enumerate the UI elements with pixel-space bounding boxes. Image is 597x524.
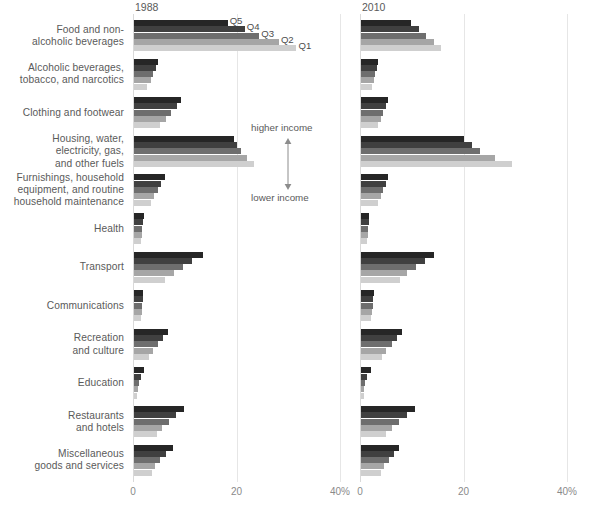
category-label-line: Recreation [0,332,124,344]
bar-q4 [361,451,394,457]
bar-q4 [361,219,369,225]
bar-q2 [361,386,364,392]
bar-q4 [134,103,177,109]
category-label-line: Restaurants [0,410,124,422]
bar-q1 [361,277,400,283]
category-label: Communications [0,300,124,312]
category-label-line: equipment, and routine [0,184,124,196]
bar-q4 [361,142,472,148]
quintile-label-q1: Q1 [298,40,311,51]
bar-q1 [361,315,371,321]
bar-q1 [134,161,254,167]
bar-q5 [361,136,464,142]
panel-2010: 2010 02040% [360,14,567,482]
bar-q2 [361,309,372,315]
bar-q1 [361,161,512,167]
bar-q1 [134,84,147,90]
quintile-label-q3: Q3 [261,28,274,39]
bar-q5 [361,367,371,373]
category-label-line: Clothing and footwear [0,107,124,119]
double-arrow-icon [282,138,294,190]
bar-q4 [361,103,386,109]
bar-q1 [361,470,381,476]
bar-q3 [134,71,153,77]
panel-title-2010: 2010 [362,1,385,13]
bar-q3 [134,148,241,154]
bar-q3 [361,71,375,77]
bar-q1 [134,277,165,283]
category-label-line: and culture [0,345,124,357]
bar-q5 [361,406,415,412]
x-tick-label: 40% [557,486,577,497]
bar-q5 [361,329,402,335]
bar-q1 [134,122,160,128]
bar-q1 [361,84,372,90]
category-label-line: Communications [0,300,124,312]
bar-q5 [361,20,411,26]
quintile-label-q5: Q5 [230,15,243,26]
category-label-line: and other fuels [0,158,124,170]
bar-q3 [134,457,160,463]
bar-q4 [361,26,419,32]
category-label: Alcoholic beverages,tobacco, and narcoti… [0,62,124,86]
bar-q2 [361,463,384,469]
bar-q3 [361,33,426,39]
category-label-line: Education [0,377,124,389]
bar-q3 [361,303,373,309]
bar-q2 [134,348,153,354]
bar-q2 [361,116,381,122]
bar-q1 [134,45,296,51]
x-tick-label: 20 [231,486,242,497]
bar-q5 [134,329,168,335]
bar-q3 [134,187,158,193]
bar-q3 [361,419,399,425]
bar-q1 [134,238,141,244]
bar-q1 [361,393,364,399]
category-label-line: and hotels [0,422,124,434]
bar-q2 [134,309,142,315]
panel-1988: 1988 02040%Q5Q4Q3Q2Q1 [133,14,340,482]
bar-q1 [361,431,386,437]
bar-q5 [134,20,228,26]
category-label: Clothing and footwear [0,107,124,119]
category-label: Housing, water,electricity, gas,and othe… [0,133,124,170]
bar-q3 [134,110,171,116]
bar-q3 [361,264,416,270]
bar-q3 [134,341,158,347]
bar-q5 [361,445,399,451]
bar-q4 [134,451,166,457]
bar-q3 [134,419,169,425]
category-label: Education [0,377,124,389]
bar-q5 [361,252,434,258]
bar-q4 [134,142,237,148]
bar-q1 [361,238,367,244]
bar-q5 [134,252,203,258]
bar-q4 [134,296,143,302]
x-tick-label: 0 [357,486,363,497]
bar-q4 [361,258,425,264]
bar-q5 [134,174,165,180]
category-label-line: Food and non- [0,24,124,36]
gridline [237,14,238,482]
category-label-line: alcoholic beverages [0,36,124,48]
higher-income-label: higher income [251,122,313,133]
category-label-line: Alcoholic beverages, [0,62,124,74]
bar-q4 [361,296,373,302]
category-label: Restaurantsand hotels [0,410,124,434]
bar-q4 [134,412,176,418]
bar-q3 [361,226,368,232]
x-tick-label: 40% [330,486,350,497]
bar-q4 [134,219,143,225]
bar-q1 [134,315,141,321]
gridline [567,14,568,482]
bar-q2 [361,77,374,83]
bar-q5 [361,290,374,296]
category-label-line: Health [0,223,124,235]
bar-q1 [361,45,441,51]
bar-q2 [134,425,162,431]
x-tick-label: 20 [458,486,469,497]
bar-q2 [134,386,138,392]
bar-q2 [134,116,166,122]
bar-q3 [361,457,389,463]
bar-q1 [134,354,149,360]
